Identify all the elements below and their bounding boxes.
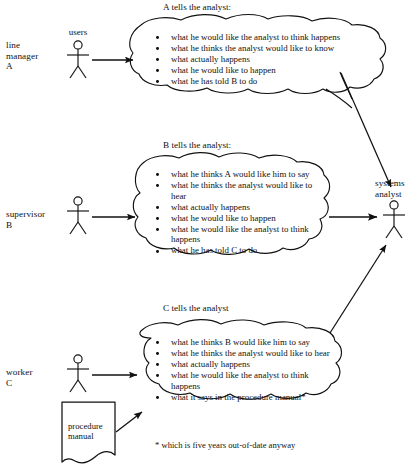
cloud-b-item: what he would like to happen [156, 213, 316, 224]
cloud-b-list: what he thinks A would like him to say w… [156, 169, 316, 256]
actor-b-role-line1: supervisor [6, 209, 45, 220]
cloud-a-item: what he would like the analyst to think … [156, 32, 382, 43]
systems-analyst-label-line2: analyst [375, 189, 405, 200]
cloud-c-item: what it says in the procedure manual* [156, 392, 336, 403]
systems-analyst-label: systems analyst [375, 178, 405, 199]
actor-a-caption: users [60, 27, 96, 37]
cloud-c-item: what he would like the analyst to think … [156, 370, 336, 392]
actor-a-role-line1: line [6, 40, 38, 51]
cloud-a-item: what he would like to happen [156, 65, 382, 76]
arrow-manual-to-cloud [116, 412, 142, 432]
cloud-c-list: what he thinks B would like him to say w… [156, 337, 336, 402]
actor-b-role: supervisor B [6, 209, 45, 230]
actor-c-role-line2: C [6, 378, 33, 389]
cloud-b-heading: B tells the analyst: [163, 140, 231, 150]
cloud-b-item: what he has told C to do [156, 245, 316, 256]
document-label-line1: procedure [68, 421, 103, 431]
actor-c-role: worker C [6, 367, 33, 388]
cloud-c-item: what actually happens [156, 359, 336, 370]
cloud-a-item: what he thinks the analyst would like to… [156, 43, 382, 54]
cloud-c-item: what he thinks B would like him to say [156, 337, 336, 348]
systems-analyst-label-line1: systems [375, 178, 405, 189]
actor-b-role-line2: B [6, 220, 45, 231]
cloud-c-heading: C tells the analyst [163, 303, 229, 313]
cloud-b-item: what he thinks the analyst would like to… [156, 180, 316, 202]
cloud-a-heading: A tells the analyst: [163, 2, 231, 12]
document-label: procedure manual [68, 421, 103, 442]
document-label-line2: manual [68, 431, 103, 441]
actor-a-role: line manager A [6, 40, 38, 72]
stick-figure-icon-analyst [383, 201, 405, 238]
actor-a-role-line3: A [6, 61, 38, 72]
diagram-canvas: line manager A users supervisor B worker… [0, 0, 419, 475]
stick-figure-icon-c [67, 355, 89, 392]
arrow-cloud-a-to-analyst [341, 73, 391, 187]
actor-a-role-line2: manager [6, 51, 38, 62]
stick-figure-icon-a [67, 41, 89, 78]
cloud-a-item: what he has told B to do [156, 76, 382, 87]
footnote: * which is five years out-of-date anyway [155, 440, 295, 450]
cloud-a-item: what actually happens [156, 54, 382, 65]
stick-figure-icon-b [67, 197, 89, 234]
arrow-cloud-c-to-analyst [330, 245, 386, 333]
cloud-b-item: what he thinks A would like him to say [156, 169, 316, 180]
actor-c-role-line1: worker [6, 367, 33, 378]
cloud-b-item: what actually happens [156, 202, 316, 213]
cloud-c-item: what he thinks the analyst would like to… [156, 348, 336, 359]
cloud-a-list: what he would like the analyst to think … [156, 32, 382, 87]
cloud-b-item: what he would like the analyst to think … [156, 224, 316, 246]
